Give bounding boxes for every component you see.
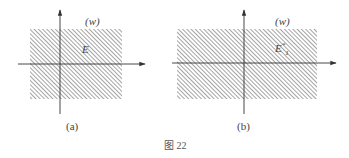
panel-sublabel-b: (b) <box>237 121 250 132</box>
panel-b <box>172 10 336 114</box>
plane-label-w-b: (w) <box>275 16 290 27</box>
region-label-text: E <box>82 43 89 55</box>
region-label-sup: * <box>282 41 286 49</box>
panel-a <box>18 10 145 114</box>
plane-label-w-a: (w) <box>85 16 100 27</box>
region-label-text: E <box>275 42 282 54</box>
region-e1-hatched <box>177 29 317 99</box>
panel-sublabel-a: (a) <box>66 121 78 132</box>
figure-caption: 图 22 <box>164 141 187 151</box>
figure-canvas <box>0 0 349 158</box>
region-label-e-a: E <box>82 44 89 55</box>
region-label-sub: 1 <box>285 49 289 57</box>
region-label-e1-b: E*1 <box>275 42 289 57</box>
